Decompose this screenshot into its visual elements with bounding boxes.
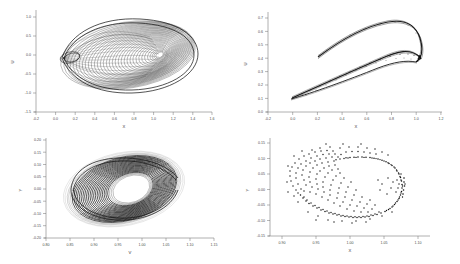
y-tick-labels-tr: 0.7 0.6 0.5 0.4 0.3 0.2 0.1 0.0 <box>258 16 263 114</box>
x-tick-label: 1.05 <box>381 241 388 245</box>
y-tick-label: 0.5 <box>258 43 263 47</box>
scatter-points-br <box>286 143 405 223</box>
y-tick-label: 0.0 <box>26 53 31 57</box>
x-ticks-tr <box>268 112 441 115</box>
y-tick-label: 0.7 <box>258 16 263 20</box>
plot-top-left: 1.0 0.5 0.0 -0.5 -1.0 -1.5 U <box>0 0 230 132</box>
x-tick-label: 0.80 <box>43 243 50 247</box>
x-axis-title-tl: X <box>123 124 126 129</box>
x-tick-labels-br: 0.90 0.95 1.00 1.05 1.10 <box>279 241 422 245</box>
x-ticks-br <box>282 236 418 239</box>
plot-bottom-right: 0.15 0.10 0.05 0.00 -0.05 -0.10 -0.15 Y … <box>230 132 460 264</box>
attractor-trace-bl <box>56 141 191 238</box>
y-axis-title-tr: U <box>243 62 248 65</box>
y-tick-label: 0.10 <box>258 157 265 161</box>
y-tick-label: 0.3 <box>258 70 263 74</box>
x-tick-label: 1.0 <box>151 117 156 121</box>
y-axis-title-br: Y <box>245 188 250 191</box>
x-tick-label: 1.6 <box>210 117 215 121</box>
x-tick-label: 1.2 <box>438 117 443 121</box>
x-tick-label: 0.4 <box>340 117 345 121</box>
y-tick-labels-bl: 0.20 0.15 0.10 0.05 0.00 -0.05 -0.10 -0.… <box>33 138 41 240</box>
y-tick-labels-tl: 1.0 0.5 0.0 -0.5 -1.0 -1.5 <box>25 15 31 114</box>
plot-bottom-left: 0.20 0.15 0.10 0.05 0.00 -0.05 -0.10 -0.… <box>0 132 230 264</box>
x-tick-label: 0.90 <box>91 243 98 247</box>
y-tick-label: -0.05 <box>257 203 265 207</box>
y-tick-label: 0.05 <box>258 172 265 176</box>
panel-bottom-left: 0.20 0.15 0.10 0.05 0.00 -0.05 -0.10 -0.… <box>0 132 230 264</box>
y-tick-label: -1.0 <box>25 91 31 95</box>
x-tick-label: 0.95 <box>313 241 320 245</box>
y-tick-label: -0.20 <box>33 236 41 240</box>
y-tick-label: 0.20 <box>34 138 41 142</box>
x-tick-label: 0.0 <box>53 117 58 121</box>
x-tick-label: 1.10 <box>415 241 422 245</box>
x-ticks-bl <box>46 238 214 241</box>
y-axis-title-bl: Y <box>18 188 23 191</box>
x-tick-label: 0.8 <box>389 117 394 121</box>
x-tick-label: 0.4 <box>92 117 97 121</box>
y-ticks-tl <box>33 17 36 112</box>
x-tick-label: 0.90 <box>279 241 286 245</box>
y-tick-label: -0.5 <box>25 72 31 76</box>
y-tick-label: -0.15 <box>33 224 41 228</box>
y-tick-label: 1.0 <box>26 15 31 19</box>
y-tick-label: 0.1 <box>258 97 263 101</box>
x-ticks-tl <box>36 112 212 115</box>
x-tick-label: 1.0 <box>414 117 419 121</box>
panel-top-left: 1.0 0.5 0.0 -0.5 -1.0 -1.5 U <box>0 0 230 132</box>
x-tick-label: 1.2 <box>171 117 176 121</box>
y-tick-label: -0.10 <box>257 219 265 223</box>
x-axis-title-bl: V <box>129 250 132 255</box>
x-tick-label: 1.00 <box>347 241 354 245</box>
y-tick-label: 0.0 <box>258 110 263 114</box>
x-tick-label: 1.15 <box>211 243 218 247</box>
x-tick-label: -0.2 <box>265 117 271 121</box>
y-tick-label: 0.15 <box>34 151 41 155</box>
y-ticks-br <box>267 143 270 236</box>
y-tick-label: -0.10 <box>33 212 41 216</box>
figure-canvas: 1.0 0.5 0.0 -0.5 -1.0 -1.5 U <box>0 0 460 264</box>
x-tick-label: 0.8 <box>132 117 137 121</box>
y-tick-label: 0.5 <box>26 34 31 38</box>
x-tick-label: 0.95 <box>115 243 122 247</box>
panel-top-right: 0.7 0.6 0.5 0.4 0.3 0.2 0.1 0.0 U <box>230 0 460 132</box>
x-tick-label: 0.2 <box>73 117 78 121</box>
x-tick-label: 1.05 <box>163 243 170 247</box>
attractor-trace-tl <box>56 12 201 98</box>
y-tick-label: 0.4 <box>258 57 263 61</box>
x-tick-label: 0.85 <box>67 243 74 247</box>
x-axis-title-br: X <box>349 248 352 253</box>
x-tick-labels-tl: -0.2 0.0 0.2 0.4 0.6 0.8 1.0 1.2 1.4 1.6 <box>33 117 215 121</box>
x-tick-label: 1.00 <box>139 243 146 247</box>
y-tick-label: 0.00 <box>258 188 265 192</box>
x-tick-label: 1.4 <box>190 117 195 121</box>
y-tick-label: 0.05 <box>34 175 41 179</box>
x-tick-labels-bl: 0.80 0.85 0.90 0.95 1.00 1.05 1.10 1.15 <box>43 243 218 247</box>
x-tick-label: -0.2 <box>33 117 39 121</box>
y-ticks-bl <box>43 140 46 238</box>
y-tick-label: 0.2 <box>258 83 263 87</box>
y-tick-label: -0.15 <box>257 234 265 238</box>
x-tick-label: 0.6 <box>112 117 117 121</box>
y-tick-label: -1.5 <box>25 110 31 114</box>
y-tick-label: 0.6 <box>258 30 263 34</box>
y-axis-title-tl: U <box>10 60 15 63</box>
y-ticks-tr <box>265 18 268 112</box>
y-tick-label: 0.00 <box>34 187 41 191</box>
poincare-curves-tr <box>291 20 423 100</box>
x-tick-label: 1.10 <box>187 243 194 247</box>
y-tick-label: 0.10 <box>34 163 41 167</box>
y-tick-label: 0.15 <box>258 141 265 145</box>
x-tick-labels-tr: -0.2 0.0 0.2 0.4 0.6 0.8 1.0 1.2 <box>265 117 444 121</box>
panel-bottom-right: 0.15 0.10 0.05 0.00 -0.05 -0.10 -0.15 Y … <box>230 132 460 264</box>
y-tick-labels-br: 0.15 0.10 0.05 0.00 -0.05 -0.10 -0.15 <box>257 141 265 238</box>
x-tick-label: 0.6 <box>364 117 369 121</box>
x-tick-label: 0.0 <box>290 117 295 121</box>
x-axis-title-tr: X <box>355 124 358 129</box>
plot-top-right: 0.7 0.6 0.5 0.4 0.3 0.2 0.1 0.0 U <box>230 0 460 132</box>
y-tick-label: -0.05 <box>33 200 41 204</box>
x-tick-label: 0.2 <box>315 117 320 121</box>
